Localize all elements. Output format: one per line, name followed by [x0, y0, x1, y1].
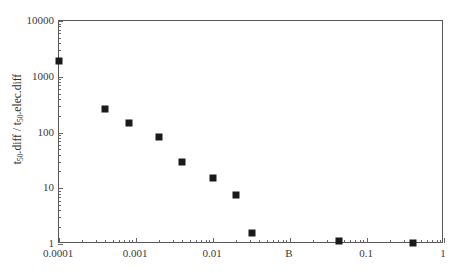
x-axis-tick-label: B — [285, 247, 292, 259]
x-axis-tick — [59, 238, 60, 243]
x-axis-minor-tick — [278, 240, 279, 243]
x-axis-minor-tick — [267, 240, 268, 243]
x-axis-minor-tick — [196, 240, 197, 243]
x-axis-minor-tick — [124, 240, 125, 243]
x-axis-minor-tick — [132, 240, 133, 243]
x-axis-tick-label: 0.0001 — [43, 247, 73, 259]
x-axis-tick-label: 0.001 — [123, 247, 148, 259]
data-point-marker — [102, 106, 109, 113]
y-axis-minor-tick — [58, 50, 61, 51]
y-axis-minor-tick — [58, 162, 61, 163]
x-axis-minor-tick — [421, 240, 422, 243]
y-axis-tick — [58, 244, 63, 245]
x-axis-minor-tick — [119, 240, 120, 243]
y-axis-minor-tick — [58, 171, 61, 172]
y-axis-minor-tick — [58, 145, 61, 146]
y-axis-minor-tick — [58, 138, 61, 139]
y-axis-minor-tick — [58, 116, 61, 117]
data-point-marker — [179, 158, 186, 165]
y-axis-minor-tick — [58, 94, 61, 95]
x-axis-tick — [444, 238, 445, 243]
x-axis-minor-tick — [209, 240, 210, 243]
y-axis-minor-tick — [58, 197, 61, 198]
x-axis-minor-tick — [390, 240, 391, 243]
y-axis-tick-labels: 110100100010000 — [0, 0, 54, 273]
x-axis-tick-label: 1 — [440, 247, 446, 259]
y-axis-tick-label: 10000 — [27, 14, 55, 26]
data-point-marker — [248, 229, 255, 236]
y-axis-minor-tick — [58, 194, 61, 195]
x-axis-minor-tick — [173, 240, 174, 243]
y-axis-minor-tick — [58, 135, 61, 136]
x-axis-minor-tick — [427, 240, 428, 243]
x-axis-minor-tick — [206, 240, 207, 243]
x-axis-tick-label: 0.01 — [202, 247, 221, 259]
y-axis-tick-label: 100 — [38, 126, 55, 138]
y-axis-minor-tick — [58, 227, 61, 228]
y-axis-minor-tick — [58, 141, 61, 142]
y-axis-tick — [58, 188, 63, 189]
y-axis-tick-label: 10 — [43, 181, 54, 193]
x-axis-tick — [213, 238, 214, 243]
x-axis-tick — [136, 238, 137, 243]
x-axis-minor-tick — [259, 240, 260, 243]
x-axis-minor-tick — [129, 240, 130, 243]
y-axis-minor-tick — [58, 149, 61, 150]
data-point-marker — [56, 58, 63, 65]
x-axis-minor-tick — [440, 240, 441, 243]
y-axis-minor-tick — [58, 201, 61, 202]
x-axis-minor-tick — [363, 240, 364, 243]
x-axis-minor-tick — [404, 240, 405, 243]
y-axis-minor-tick — [58, 26, 61, 27]
plot-area — [58, 20, 443, 243]
y-axis-minor-tick — [58, 217, 61, 218]
x-axis-tick-label: 0.1 — [359, 247, 373, 259]
y-axis-minor-tick — [58, 43, 61, 44]
y-axis-minor-tick — [58, 38, 61, 39]
y-axis-minor-tick — [58, 85, 61, 86]
x-axis-tick — [367, 238, 368, 243]
y-axis-minor-tick — [58, 30, 61, 31]
y-axis-minor-tick — [58, 210, 61, 211]
y-axis-minor-tick — [58, 24, 61, 25]
y-axis-minor-tick — [58, 79, 61, 80]
x-axis-minor-tick — [182, 240, 183, 243]
data-point-marker — [156, 134, 163, 141]
x-axis-minor-tick — [105, 240, 106, 243]
x-axis-minor-tick — [82, 240, 83, 243]
y-axis-minor-tick — [58, 191, 61, 192]
y-axis-minor-tick — [58, 33, 61, 34]
x-axis-minor-tick — [273, 240, 274, 243]
y-axis-minor-tick — [58, 99, 61, 100]
y-axis-tick — [58, 77, 63, 78]
y-axis-tick-label: 1000 — [32, 70, 54, 82]
x-axis-tick — [290, 238, 291, 243]
x-axis-minor-tick — [432, 240, 433, 243]
y-axis-minor-tick — [58, 205, 61, 206]
y-axis-minor-tick — [58, 82, 61, 83]
x-axis-minor-tick — [201, 240, 202, 243]
y-axis-minor-tick — [58, 106, 61, 107]
x-axis-minor-tick — [355, 240, 356, 243]
x-axis-minor-tick — [159, 240, 160, 243]
x-axis-minor-tick — [313, 240, 314, 243]
chart-figure: t50.diff / t50.elec.diff 110100100010000… — [0, 0, 463, 273]
y-axis-tick — [58, 133, 63, 134]
data-point-marker — [210, 174, 217, 181]
x-axis-minor-tick — [344, 240, 345, 243]
x-axis-minor-tick — [236, 240, 237, 243]
y-axis-tick — [58, 21, 63, 22]
x-axis-minor-tick — [437, 240, 438, 243]
y-axis-minor-tick — [58, 89, 61, 90]
data-point-marker — [410, 239, 417, 246]
x-axis-minor-tick — [327, 240, 328, 243]
x-axis-minor-tick — [283, 240, 284, 243]
data-point-marker — [125, 120, 132, 127]
x-axis-minor-tick — [190, 240, 191, 243]
data-point-marker — [233, 191, 240, 198]
y-axis-minor-tick — [58, 155, 61, 156]
x-axis-minor-tick — [360, 240, 361, 243]
x-axis-minor-tick — [96, 240, 97, 243]
x-axis-minor-tick — [350, 240, 351, 243]
data-point-marker — [335, 237, 342, 244]
